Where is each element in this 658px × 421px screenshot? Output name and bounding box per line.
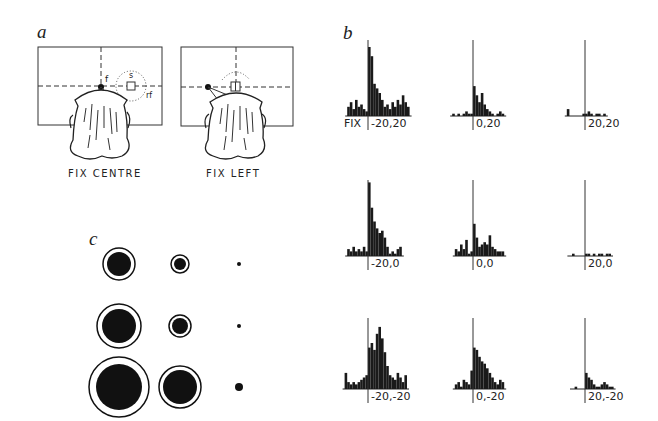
disc-r2-c0 [89,357,149,417]
disc-r0-c0 [103,248,135,280]
disc-grid [0,0,658,421]
disc-r1-c2 [237,324,241,328]
disc-r0-c1 [171,255,189,273]
disc-r2-c1 [159,366,201,408]
disc-r1-c0 [97,304,141,348]
disc-r2-c2 [235,383,243,391]
disc-r0-c2 [237,262,241,266]
disc-r1-c1 [169,315,191,337]
